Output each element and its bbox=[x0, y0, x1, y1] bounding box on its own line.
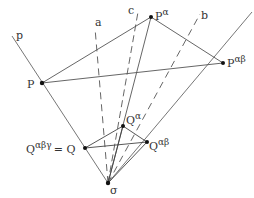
point-p bbox=[40, 81, 44, 85]
label-pab-sup: αβ bbox=[234, 54, 245, 64]
label-qa-base: Q bbox=[126, 114, 135, 127]
point-pab bbox=[221, 61, 225, 65]
label-equation: Qαβγ= Q bbox=[26, 140, 75, 156]
label-line-p: p bbox=[16, 29, 23, 42]
segment-p-pab bbox=[42, 63, 223, 83]
label-qa: Qα bbox=[126, 111, 141, 127]
point-q bbox=[83, 146, 87, 150]
segment-qa-qab bbox=[123, 126, 147, 142]
line-p bbox=[12, 36, 108, 183]
label-p: P bbox=[27, 78, 35, 91]
label-pab: Pαβ bbox=[227, 54, 246, 70]
label-pa-sup: α bbox=[162, 7, 168, 17]
reflection-diagram: p a c b P Pα Pαβ Qα Qαβ Qαβγ= Q σ bbox=[0, 0, 254, 198]
label-line-a: a bbox=[95, 16, 102, 29]
label-qab-base: Q bbox=[149, 140, 158, 153]
label-qab: Qαβ bbox=[149, 137, 169, 153]
segment-pa-pab bbox=[151, 17, 223, 63]
label-qa-sup: α bbox=[135, 111, 141, 121]
label-qab-sup: αβ bbox=[158, 137, 169, 147]
mirror-line-a bbox=[95, 28, 108, 183]
label-eq-rhs: = Q bbox=[54, 143, 76, 156]
label-eq-base: Q bbox=[26, 143, 35, 156]
label-pa: Pα bbox=[155, 7, 168, 23]
label-line-c: c bbox=[128, 4, 134, 17]
label-line-b: b bbox=[201, 9, 208, 22]
label-eq-sup: αβγ bbox=[35, 140, 52, 150]
point-pa bbox=[149, 15, 153, 19]
line-right-boundary bbox=[108, 12, 252, 183]
mirror-line-c bbox=[108, 12, 138, 183]
label-origin: σ bbox=[110, 184, 118, 197]
point-qa bbox=[121, 124, 125, 128]
